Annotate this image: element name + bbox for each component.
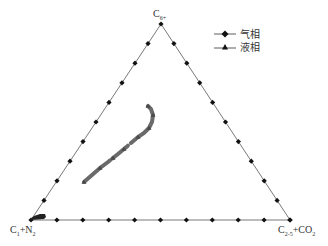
legend-label-liquid: 液相 <box>240 39 260 54</box>
triangle-marker-icon <box>214 43 236 51</box>
vertex-label-bottom-right: C2-5+CO2 <box>278 224 315 237</box>
vertex-label-top: C6+ <box>153 8 166 21</box>
ternary-plot <box>0 0 328 246</box>
vertex-label-bottom-left: C1+N2 <box>10 224 36 237</box>
diamond-marker-icon <box>214 30 236 38</box>
gas-phase-cluster <box>30 214 46 220</box>
liquid-phase-band <box>82 104 156 184</box>
legend: 气相 液相 <box>214 27 260 53</box>
legend-item-liquid: 液相 <box>214 40 260 53</box>
